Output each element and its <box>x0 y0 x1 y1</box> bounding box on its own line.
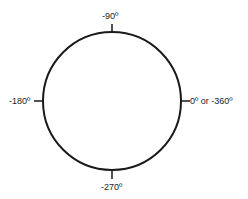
label-zero-or-minus-360: 0º or -360º <box>190 96 233 106</box>
label-minus-270: -270º <box>101 182 122 192</box>
label-minus-90: -90º <box>102 11 118 21</box>
unit-circle <box>43 32 181 170</box>
angle-circle-diagram: -90º -180º 0º or -360º -270º <box>0 0 248 199</box>
label-minus-180: -180º <box>9 96 30 106</box>
